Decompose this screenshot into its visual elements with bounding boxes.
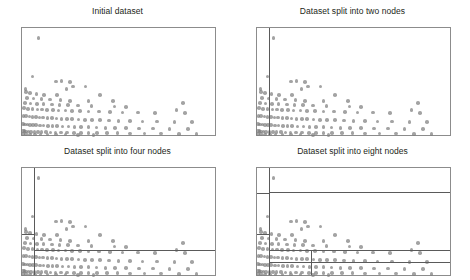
data-point [314, 125, 318, 129]
data-point [181, 101, 185, 105]
split-line-h [257, 234, 269, 235]
data-point [137, 267, 141, 271]
data-point [137, 127, 141, 131]
data-point [26, 107, 30, 111]
data-point [325, 118, 329, 122]
split-line-h [269, 192, 450, 193]
data-point [35, 102, 39, 106]
data-point [87, 239, 91, 243]
data-point [260, 96, 264, 100]
data-point [295, 257, 299, 261]
data-point [55, 117, 59, 121]
data-point [59, 131, 63, 135]
data-point [274, 273, 278, 277]
data-point [59, 271, 63, 275]
data-point [177, 132, 181, 136]
data-point [46, 264, 50, 268]
data-point [300, 87, 304, 91]
data-point [46, 133, 50, 137]
data-point [67, 125, 71, 129]
data-point [306, 225, 310, 229]
data-point [430, 132, 434, 136]
data-point [111, 99, 115, 103]
data-point [78, 109, 82, 113]
data-point [261, 247, 265, 251]
data-point [285, 243, 289, 247]
data-point [124, 245, 128, 249]
data-point [59, 238, 63, 242]
data-point [289, 133, 293, 137]
data-point [408, 120, 412, 124]
data-point [143, 132, 147, 136]
split-line-h [269, 250, 450, 251]
scatter-canvas [22, 28, 215, 135]
data-point [294, 98, 298, 102]
data-point [270, 232, 274, 236]
data-point [277, 102, 281, 106]
data-point [33, 133, 37, 137]
data-point [113, 105, 117, 109]
data-point [293, 103, 297, 107]
data-point [303, 220, 307, 224]
data-point [290, 124, 294, 128]
data-point [23, 241, 27, 245]
data-point [121, 251, 125, 255]
data-point [258, 241, 262, 245]
data-point [28, 273, 32, 277]
data-point [190, 120, 194, 124]
data-point [42, 102, 46, 106]
data-point [97, 110, 101, 114]
data-point [290, 117, 294, 121]
data-point [260, 236, 264, 240]
data-point [155, 120, 159, 124]
data-point [386, 127, 390, 131]
data-point [286, 124, 290, 128]
data-point [60, 219, 64, 223]
data-point [83, 118, 87, 122]
data-point [284, 271, 288, 275]
data-point [55, 233, 59, 237]
data-point [121, 111, 125, 115]
data-point [272, 176, 276, 180]
data-point [283, 238, 287, 242]
data-point [270, 102, 274, 106]
data-point [65, 257, 69, 261]
data-point [57, 109, 61, 113]
data-point [76, 133, 80, 137]
data-point [42, 264, 46, 268]
data-point [277, 242, 281, 246]
data-point [70, 117, 74, 121]
data-point [28, 91, 32, 95]
data-point [305, 117, 309, 121]
data-point [416, 241, 420, 245]
data-point [281, 116, 285, 120]
data-point [301, 243, 305, 247]
data-point [333, 118, 337, 122]
data-point [84, 225, 88, 229]
data-point [190, 260, 194, 264]
data-point [108, 110, 112, 114]
data-point [295, 219, 299, 223]
data-point [394, 272, 398, 276]
data-point [410, 108, 414, 112]
data-point [87, 99, 91, 103]
data-point [295, 79, 299, 83]
data-point [42, 93, 46, 97]
split-line-h [269, 262, 450, 263]
data-point [388, 111, 392, 115]
plot-area [21, 167, 216, 276]
data-point [128, 119, 132, 123]
data-point [376, 120, 380, 124]
data-point [45, 108, 49, 112]
data-point [322, 125, 326, 129]
data-point [49, 271, 53, 275]
panel-initial-dataset: Initial dataset [0, 0, 235, 140]
data-point [68, 220, 72, 224]
data-point [274, 133, 278, 137]
data-point [285, 103, 289, 107]
data-point [76, 244, 80, 248]
data-point [41, 116, 45, 120]
data-point [412, 272, 416, 276]
data-point [300, 227, 304, 231]
data-point [348, 266, 352, 270]
